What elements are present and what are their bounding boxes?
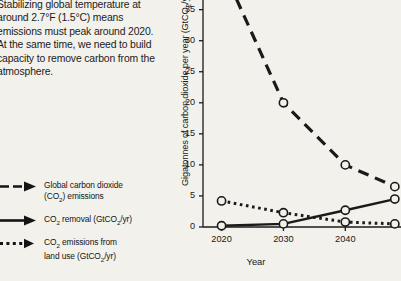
legend-swatch-dotted-arrow: [0, 237, 40, 250]
data-point: [279, 220, 287, 228]
legend-label-co2-emissions-land-use: CO2 emissions from land use (GtCO2/yr): [44, 237, 117, 265]
legend-label-co2-removal: CO2 removal (GtCO2/yr): [44, 214, 132, 228]
page-root: Stabilizing global temperature at around…: [0, 0, 401, 281]
legend-label-line1-pre: CO: [44, 237, 56, 247]
legend-label-global-co2-emissions: Global carbon dioxide (CO2) emissions: [44, 180, 123, 205]
data-point: [217, 197, 225, 205]
legend-label-line2-post: /yr): [104, 251, 116, 261]
legend-label-post: /yr): [120, 214, 132, 224]
legend-label-line2-pre: (CO: [44, 191, 59, 201]
legend-item-global-co2-emissions[interactable]: Global carbon dioxide (CO2) emissions: [0, 180, 165, 205]
data-point: [391, 220, 399, 228]
data-point: [391, 195, 399, 203]
data-point: [341, 161, 349, 169]
explanatory-paragraph: Stabilizing global temperature at around…: [0, 0, 157, 78]
plot-area: [166, 0, 401, 281]
legend-label-mid: removal (GtCO: [60, 214, 117, 224]
legend-label-line2-pre: land use (GtCO: [44, 251, 101, 261]
chart-legend: Global carbon dioxide (CO2) emissions CO…: [0, 180, 165, 274]
emissions-chart: Gigatonnes of carbon dioxide per year (G…: [166, 0, 401, 281]
legend-label-pre: CO: [44, 214, 56, 224]
data-point: [341, 206, 349, 214]
series-line-0: [222, 0, 395, 187]
legend-label-line1-post: emissions from: [60, 237, 117, 247]
legend-label-line2-post: ) emissions: [62, 191, 103, 201]
legend-swatch-solid-arrow: [0, 214, 40, 227]
legend-item-co2-emissions-land-use[interactable]: CO2 emissions from land use (GtCO2/yr): [0, 237, 165, 265]
legend-swatch-dashed-arrow: [0, 180, 40, 193]
data-point: [217, 222, 225, 230]
data-point: [279, 209, 287, 217]
data-point: [391, 183, 399, 191]
data-point: [279, 99, 287, 107]
legend-item-co2-removal[interactable]: CO2 removal (GtCO2/yr): [0, 214, 165, 228]
data-point: [341, 218, 349, 226]
legend-label-line1: Global carbon dioxide: [44, 180, 123, 190]
